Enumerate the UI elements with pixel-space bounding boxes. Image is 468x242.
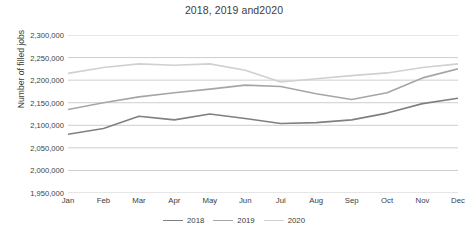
series-line-2019 [68, 69, 458, 110]
x-axis-tick-label: Mar [119, 196, 159, 205]
x-axis-tick-label: Apr [154, 196, 194, 205]
x-axis-tick-label: May [190, 196, 230, 205]
x-axis-tick-label: Jun [225, 196, 265, 205]
legend-item-2019[interactable]: 2019 [213, 216, 254, 225]
x-axis-tick-label: Jul [261, 196, 301, 205]
x-axis-tick-label: Oct [367, 196, 407, 205]
x-axis-tick-label: Dec [438, 196, 468, 205]
legend-swatch-2018 [163, 220, 183, 221]
chart-title: 2018, 2019 and2020 [0, 4, 468, 16]
y-axis-tick-label: 2,050,000 [2, 143, 64, 152]
x-axis-tick-label: Sep [332, 196, 372, 205]
legend-label: 2020 [288, 216, 305, 225]
y-axis-tick-label: 2,250,000 [2, 53, 64, 62]
legend-label: 2019 [237, 216, 254, 225]
x-axis-tick-label: Aug [296, 196, 336, 205]
gridlines [68, 35, 458, 193]
legend-swatch-2020 [264, 220, 284, 221]
legend-item-2020[interactable]: 2020 [264, 216, 305, 225]
x-axis-tick-label: Jan [48, 196, 88, 205]
y-axis-tick-label: 2,100,000 [2, 121, 64, 130]
x-axis-tick-label: Feb [83, 196, 123, 205]
y-axis-tick-label: 2,200,000 [2, 76, 64, 85]
plot-area [68, 35, 458, 193]
y-axis-tick-label: 2,300,000 [2, 31, 64, 40]
x-axis-tick-label: Nov [403, 196, 443, 205]
plot-svg [68, 35, 458, 193]
line-chart: 2018, 2019 and2020 Number of filled jobs… [0, 0, 468, 242]
legend-swatch-2019 [213, 220, 233, 221]
x-axis-tick-labels: JanFebMarAprMayJunJulAugSepOctNovDec [68, 196, 458, 210]
y-axis-tick-label: 2,150,000 [2, 98, 64, 107]
y-axis-tick-labels: 2,300,0002,250,0002,200,0002,150,0002,10… [0, 35, 64, 193]
y-axis-tick-label: 2,000,000 [2, 166, 64, 175]
series-lines [68, 64, 458, 134]
series-line-2018 [68, 98, 458, 134]
legend-item-2018[interactable]: 2018 [163, 216, 204, 225]
chart-legend: 201820192020 [0, 216, 468, 225]
legend-label: 2018 [187, 216, 204, 225]
series-line-2020 [68, 64, 458, 82]
